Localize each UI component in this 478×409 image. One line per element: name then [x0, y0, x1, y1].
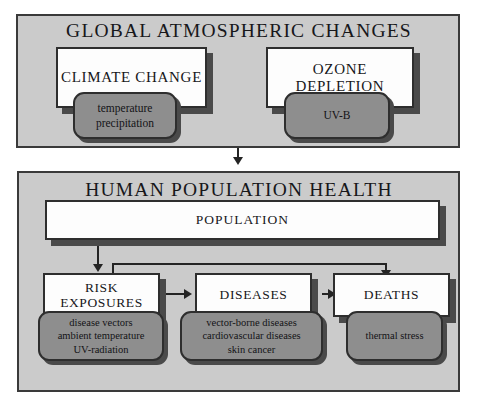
risk-item-disease-vectors: disease vectors [69, 316, 132, 329]
diseases-header-line1: DISEASES [220, 287, 288, 302]
connector-population-to-risk-arrow-icon [93, 264, 103, 272]
diagram-canvas: GLOBAL ATMOSPHERIC CHANGES CLIMATE CHANG… [0, 0, 478, 409]
panel-title-global: GLOBAL ATMOSPHERIC CHANGES [0, 20, 478, 42]
risk-exposures-header-line1: RISK [60, 280, 143, 295]
risk-item-ambient-temperature: ambient temperature [58, 329, 145, 342]
risk-item-uv-radiation: UV-radiation [73, 343, 128, 356]
diseases-item-vector-borne: vector-borne diseases [206, 316, 296, 329]
deaths-header-line1: DEATHS [364, 287, 419, 302]
box-climate-change-details: temperature precipitation [73, 92, 177, 139]
connector-global-to-human-arrow-icon [233, 157, 243, 165]
panel-title-human: HUMAN POPULATION HEALTH [0, 179, 478, 201]
climate-item-temperature: temperature [98, 101, 153, 116]
box-population: POPULATION [45, 200, 440, 240]
diseases-item-cardiovascular: cardiovascular diseases [202, 329, 300, 342]
box-diseases-details: vector-borne diseases cardiovascular dis… [180, 311, 323, 361]
box-ozone-depletion-details: UV-B [284, 92, 390, 139]
box-deaths-details: thermal stress [346, 311, 443, 361]
box-risk-exposures-details: disease vectors ambient temperature UV-r… [38, 311, 164, 361]
connector-population-to-deaths-line [112, 263, 387, 265]
ozone-item-uvb: UV-B [323, 108, 350, 123]
deaths-item-thermal-stress: thermal stress [365, 329, 423, 342]
climate-item-precipitation: precipitation [96, 116, 154, 131]
risk-exposures-header-line2: EXPOSURES [60, 295, 143, 310]
connector-risk-to-diseases-arrow-icon [184, 289, 192, 299]
diseases-item-skin-cancer: skin cancer [228, 343, 276, 356]
